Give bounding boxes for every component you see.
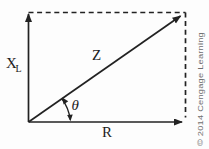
impedance-vector (29, 16, 181, 122)
theta-label: θ (72, 97, 80, 113)
inductive-reactance-label-subscript: L (16, 63, 22, 74)
figure-container: X L Z θ R © 2014 Cengage Learning (0, 0, 209, 149)
resistance-label: R (102, 124, 112, 140)
impedance-label: Z (92, 47, 101, 63)
inductive-reactance-label: X L (6, 54, 22, 74)
impedance-diagram: X L Z θ R © 2014 Cengage Learning (0, 0, 209, 149)
theta-arc-arrowhead-bottom (67, 115, 73, 122)
copyright-credit-text: © 2014 Cengage Learning (196, 32, 205, 146)
